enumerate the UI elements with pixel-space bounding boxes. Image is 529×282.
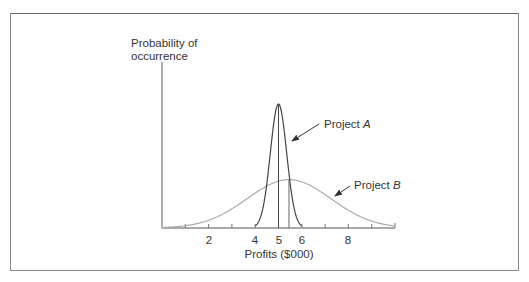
tick-label-8: 8 — [345, 234, 351, 246]
project-a-label: Project A — [324, 118, 371, 130]
tick-label-5: 5 — [276, 234, 282, 246]
chart-canvas: Probability of occurrence 2 4 5 6 8 Prof… — [0, 0, 529, 282]
tick-label-2: 2 — [206, 234, 212, 246]
tick-label-4: 4 — [252, 234, 259, 246]
tick-label-6: 6 — [299, 234, 305, 246]
x-axis-label: Profits ($000) — [244, 248, 313, 260]
project-b-arrow — [335, 186, 350, 196]
y-axis-label-line2: occurrence — [131, 50, 188, 62]
project-b-label: Project B — [354, 179, 401, 191]
project-a-arrow — [292, 124, 319, 141]
y-axis-label-line1: Probability of — [131, 37, 198, 49]
